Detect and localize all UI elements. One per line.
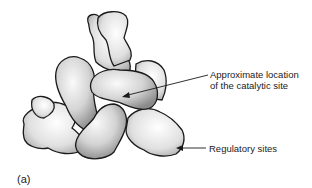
protein-structure-diagram bbox=[0, 0, 312, 188]
catalytic-site-label: Approximate location of the catalytic si… bbox=[210, 69, 299, 91]
catalytic-site-label-line1: Approximate location bbox=[210, 69, 299, 80]
panel-label: (a) bbox=[17, 174, 30, 185]
catalytic-site-label-line2: of the catalytic site bbox=[210, 80, 299, 91]
regulatory-sites-label: Regulatory sites bbox=[209, 143, 277, 154]
